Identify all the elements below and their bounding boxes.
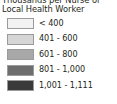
legend-item-label: < 400	[39, 18, 64, 29]
legend-color-swatch-icon	[7, 80, 34, 91]
legend-items: < 400 401 - 600 601 - 800 801 - 1,000 1,…	[0, 17, 117, 95]
legend-item-label: 801 - 1,000	[39, 64, 85, 75]
legend-color-swatch-icon	[7, 18, 34, 29]
legend-item: 601 - 800	[0, 48, 117, 64]
legend-color-swatch-icon	[7, 65, 34, 76]
legend-title-line-2: Local Health Worker	[2, 5, 117, 14]
map-legend: Thousands per Nurse or Local Health Work…	[0, 0, 117, 104]
legend-item: 401 - 600	[0, 33, 117, 49]
legend-item: < 400	[0, 17, 117, 33]
legend-title: Thousands per Nurse or Local Health Work…	[2, 0, 117, 15]
legend-item-label: 1,001 - 1,111	[39, 80, 93, 91]
legend-item-label: 601 - 800	[39, 49, 78, 60]
legend-item: 1,001 - 1,111	[0, 79, 117, 95]
legend-item-label: 401 - 600	[39, 33, 78, 44]
legend-color-swatch-icon	[7, 49, 34, 60]
legend-item: 801 - 1,000	[0, 64, 117, 80]
legend-color-swatch-icon	[7, 34, 34, 45]
